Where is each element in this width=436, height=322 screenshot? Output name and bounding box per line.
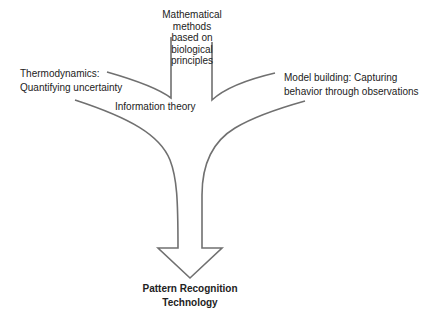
label-line: Model building: Capturing (284, 71, 419, 85)
label-information-theory: Information theory (115, 100, 196, 114)
label-line: methods (152, 21, 232, 33)
label-pattern-recognition-technology: Pattern Recognition Technology (130, 282, 250, 310)
converging-arrow-outline (75, 100, 305, 278)
label-line: biological (152, 44, 232, 56)
label-line: behavior through observations (284, 85, 419, 99)
label-line: Technology (130, 296, 250, 310)
label-line: Information theory (115, 100, 196, 114)
label-line: principles (152, 55, 232, 67)
label-line: Pattern Recognition (130, 282, 250, 296)
label-mathematical-methods: Mathematical methods based on biological… (152, 9, 232, 67)
label-model-building: Model building: Capturing behavior throu… (284, 71, 419, 99)
label-line: Quantifying uncertainty (20, 81, 122, 95)
label-line: Thermodynamics: (20, 67, 122, 81)
label-thermodynamics: Thermodynamics: Quantifying uncertainty (20, 67, 122, 95)
label-line: Mathematical (152, 9, 232, 21)
label-line: based on (152, 32, 232, 44)
